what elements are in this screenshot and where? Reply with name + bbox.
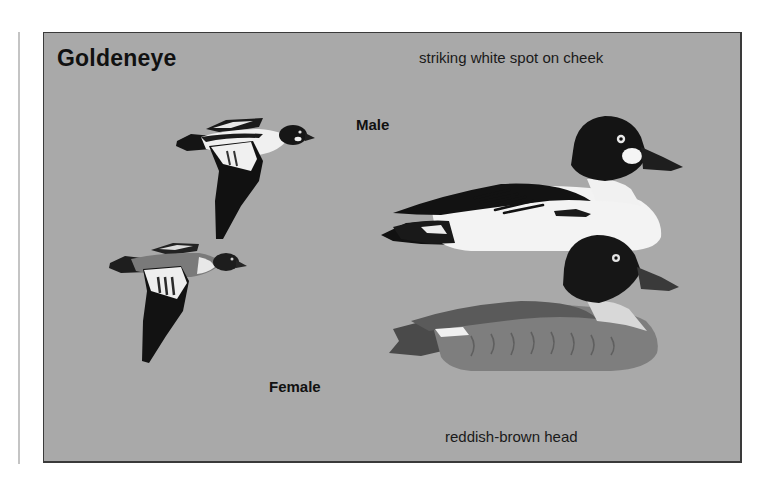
- label-male: Male: [356, 116, 389, 133]
- male-swimming-illustration: [381, 116, 683, 251]
- bird-illustrations: [44, 33, 740, 461]
- page-gutter-line: [18, 32, 20, 464]
- female-flying-illustration: [109, 243, 247, 363]
- label-female: Female: [269, 378, 321, 395]
- caption-head-color: reddish-brown head: [445, 428, 578, 445]
- female-swimming-illustration: [389, 235, 679, 371]
- goldeneye-plate: Goldeneye striking white spot on cheek r…: [43, 32, 742, 463]
- plate-title: Goldeneye: [57, 45, 176, 72]
- caption-cheek-spot: striking white spot on cheek: [419, 49, 603, 66]
- male-flying-illustration: [176, 118, 315, 239]
